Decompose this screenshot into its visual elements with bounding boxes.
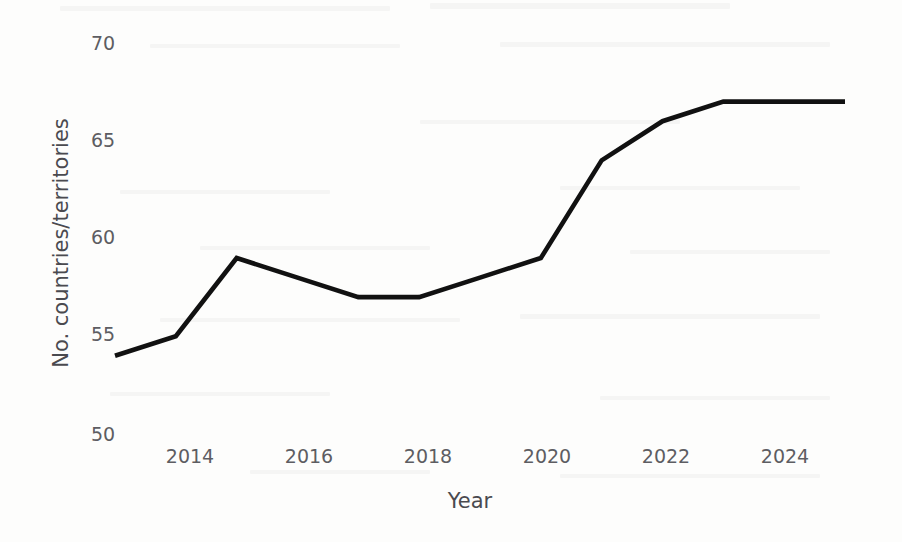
y-tick-label: 70 [91,32,115,54]
x-tick-label: 2024 [761,445,809,467]
y-tick-label: 50 [91,423,115,445]
x-tick-label: 2018 [404,445,452,467]
x-tick-label: 2022 [642,445,690,467]
x-tick-label: 2014 [166,445,214,467]
x-axis-title: Year [447,489,493,513]
line-chart: 70 65 60 55 50 2014 2016 2018 2020 2022 … [0,0,902,542]
y-tick-label: 55 [91,323,115,345]
y-tick-label: 60 [91,226,115,248]
x-tick-label: 2020 [523,445,571,467]
y-axis-tick-labels: 70 65 60 55 50 [91,32,115,445]
x-axis-tick-labels: 2014 2016 2018 2020 2022 2024 [166,445,809,467]
data-line-series [115,102,845,356]
x-tick-label: 2016 [285,445,333,467]
chart-figure: 70 65 60 55 50 2014 2016 2018 2020 2022 … [0,0,902,542]
y-tick-label: 65 [91,129,115,151]
y-axis-title: No. countries/territories [49,118,73,368]
